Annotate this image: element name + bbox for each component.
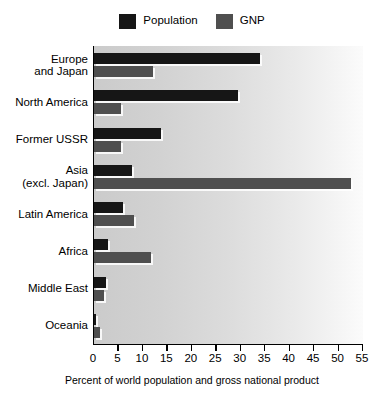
- bar-group: [94, 277, 363, 303]
- bar-population: [94, 165, 132, 176]
- x-tick: [240, 345, 241, 351]
- x-tick: [142, 345, 143, 351]
- category-label-line1: Europe: [0, 53, 88, 66]
- x-tick-label: 40: [282, 352, 295, 364]
- category-label-line2: (excl. Japan): [0, 177, 88, 190]
- bar-population: [94, 53, 260, 64]
- bar-group: [94, 314, 363, 340]
- x-tick-label: 30: [233, 352, 246, 364]
- bar-gnp: [94, 178, 351, 189]
- bar-group: [94, 90, 363, 116]
- bar-group: [94, 128, 363, 154]
- category-label: Europeand Japan: [0, 53, 88, 78]
- category-label-line1: Asia: [0, 164, 88, 177]
- category-label: Africa: [0, 245, 88, 258]
- category-label: Former USSR: [0, 133, 88, 146]
- x-tick-label: 10: [136, 352, 149, 364]
- category-axis-labels: Europeand JapanNorth AmericaFormer USSRA…: [0, 46, 88, 344]
- category-label-line1: Middle East: [0, 282, 88, 295]
- bar-group: [94, 202, 363, 228]
- x-tick-label: 35: [258, 352, 271, 364]
- bar-chart: PopulationGNP Europeand JapanNorth Ameri…: [0, 0, 384, 403]
- bar-population: [94, 90, 238, 101]
- x-axis-title: Percent of world population and gross na…: [0, 374, 384, 386]
- category-label-line1: Africa: [0, 245, 88, 258]
- bar-population: [94, 314, 96, 325]
- bar-gnp: [94, 327, 100, 338]
- bar-gnp: [94, 215, 134, 226]
- x-tick: [117, 345, 118, 351]
- bars-layer: [94, 46, 363, 344]
- x-tick-label: 15: [160, 352, 173, 364]
- x-tick: [166, 345, 167, 351]
- bar-gnp: [94, 141, 121, 152]
- bar-gnp: [94, 66, 153, 77]
- x-tick: [215, 345, 216, 351]
- plot-area: [93, 46, 363, 345]
- bar-population: [94, 239, 108, 250]
- category-label-line1: Former USSR: [0, 133, 88, 146]
- category-label: North America: [0, 96, 88, 109]
- x-axis-tick-labels: 0510152025303540455055: [93, 352, 362, 368]
- bar-group: [94, 53, 363, 79]
- legend-swatch-icon: [216, 14, 233, 29]
- legend-entry: Population: [119, 14, 197, 29]
- category-label: Middle East: [0, 282, 88, 295]
- bar-population: [94, 128, 161, 139]
- bar-population: [94, 202, 123, 213]
- category-label: Oceania: [0, 319, 88, 332]
- chart-legend: PopulationGNP: [0, 10, 384, 32]
- category-label-line1: North America: [0, 96, 88, 109]
- bar-gnp: [94, 290, 104, 301]
- x-tick: [191, 345, 192, 351]
- x-tick: [362, 345, 363, 351]
- x-tick: [289, 345, 290, 351]
- bar-population: [94, 277, 106, 288]
- x-tick-label: 0: [90, 352, 96, 364]
- x-tick-label: 55: [356, 352, 369, 364]
- x-tick-label: 5: [114, 352, 120, 364]
- bar-gnp: [94, 103, 121, 114]
- legend-swatch-icon: [119, 14, 136, 29]
- category-label-line1: Oceania: [0, 319, 88, 332]
- bar-group: [94, 165, 363, 191]
- x-tick-label: 45: [307, 352, 320, 364]
- x-tick-label: 25: [209, 352, 222, 364]
- x-tick-label: 20: [184, 352, 197, 364]
- bar-gnp: [94, 252, 151, 263]
- x-axis-ticks: [93, 345, 362, 351]
- bar-group: [94, 239, 363, 265]
- x-tick: [264, 345, 265, 351]
- category-label-line1: Latin America: [0, 208, 88, 221]
- legend-entry: GNP: [216, 14, 265, 29]
- category-label: Asia(excl. Japan): [0, 164, 88, 189]
- x-tick-label: 50: [331, 352, 344, 364]
- category-label: Latin America: [0, 208, 88, 221]
- category-label-line2: and Japan: [0, 65, 88, 78]
- legend-label: GNP: [240, 15, 265, 27]
- x-tick: [338, 345, 339, 351]
- x-tick: [313, 345, 314, 351]
- legend-label: Population: [143, 15, 197, 27]
